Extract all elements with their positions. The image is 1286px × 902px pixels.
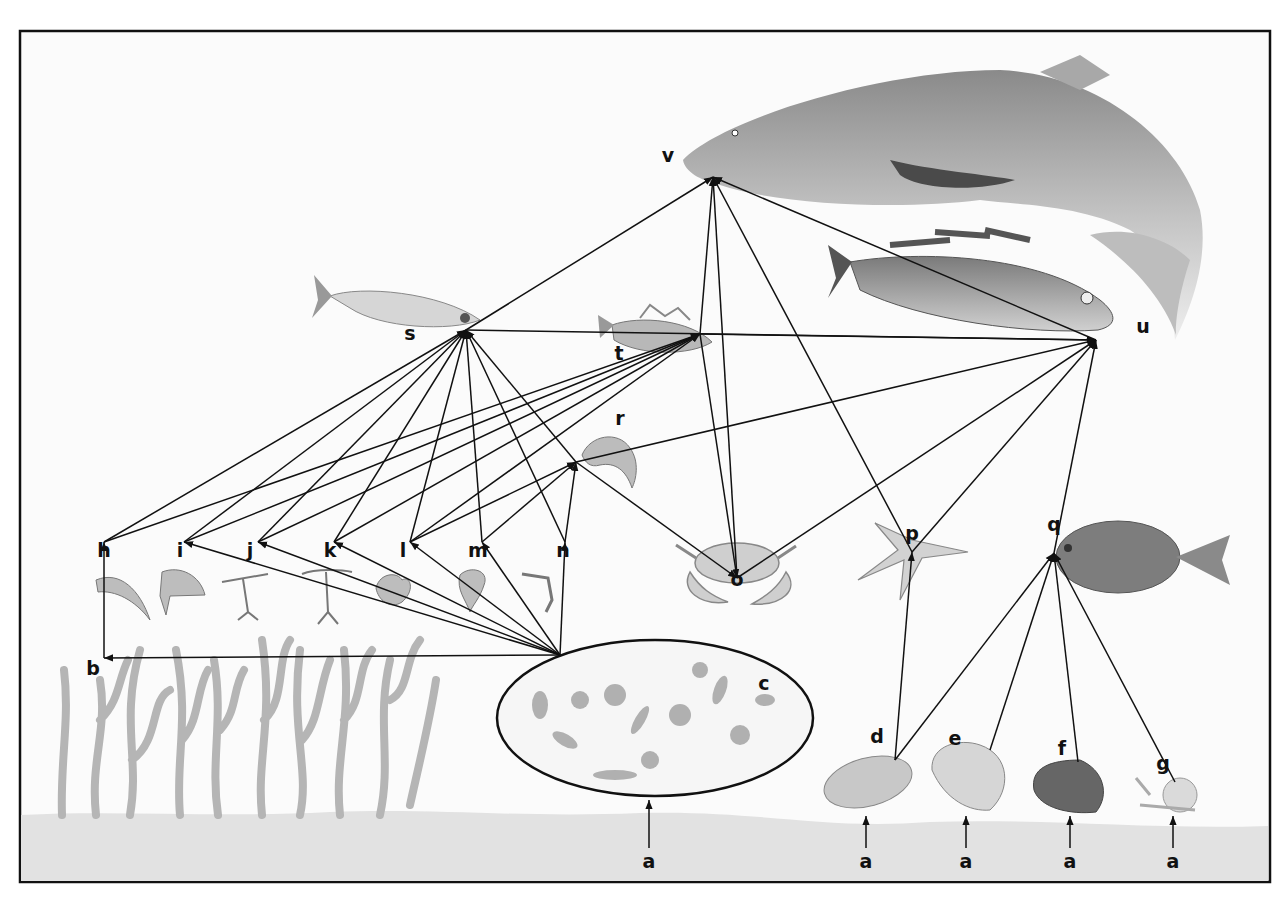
label-i: i [177, 539, 184, 561]
label-t: t [614, 342, 623, 364]
label-a5: a [1167, 850, 1180, 872]
label-g: g [1156, 752, 1170, 774]
label-d: d [870, 725, 884, 747]
label-u: u [1136, 315, 1150, 337]
label-v: v [662, 144, 675, 166]
label-c: c [758, 672, 769, 694]
label-f: f [1058, 737, 1067, 759]
label-a3: a [960, 850, 973, 872]
label-k: k [324, 539, 337, 561]
label-h: h [97, 539, 111, 561]
label-b: b [86, 657, 100, 679]
label-p: p [905, 522, 919, 544]
label-a4: a [1064, 850, 1077, 872]
label-q: q [1047, 513, 1061, 535]
phytoplankton-illustration [497, 640, 813, 796]
label-n: n [556, 539, 570, 561]
label-l: l [400, 539, 407, 561]
label-s: s [404, 322, 415, 344]
label-o: o [730, 568, 743, 590]
label-j: j [246, 539, 254, 561]
label-a1: a [643, 850, 656, 872]
food-web-diagram: aaaaabcdefghijklmnopqrstuv [0, 0, 1286, 902]
label-a2: a [860, 850, 873, 872]
label-m: m [468, 539, 488, 561]
label-e: e [949, 727, 962, 749]
label-r: r [615, 407, 625, 429]
